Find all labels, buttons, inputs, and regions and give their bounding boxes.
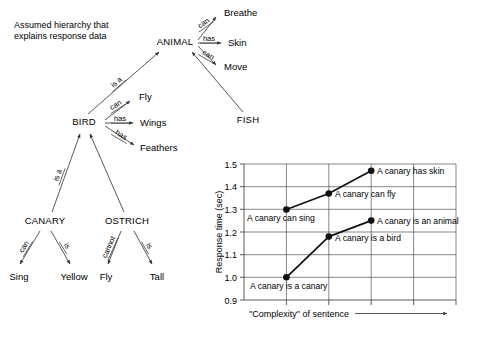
rel-ostrich-tall-group: is	[142, 237, 157, 254]
relation-animal-skin: has	[203, 34, 215, 43]
rel-canary-sing-group: can	[15, 237, 32, 257]
node-ostrich: OSTRICH	[105, 215, 149, 226]
node-canary: CANARY	[25, 215, 66, 226]
ytick-label-1.0: 1.0	[224, 273, 237, 283]
isa-edge-ostrich-bird	[90, 134, 124, 212]
ytick-label-1.5: 1.5	[224, 160, 237, 170]
rel-ostrich-fly-group: cannot	[100, 234, 118, 260]
leaf-breathe: Breathe	[224, 7, 257, 18]
leaf-move: Move	[224, 61, 247, 72]
isa-edge-bird-animal	[88, 52, 159, 114]
leaf-sing: Sing	[9, 271, 28, 282]
leaf-wings: Wings	[140, 117, 167, 128]
point-label-canary-is-a-bird: A canary is a bird	[335, 233, 401, 243]
rel-canary-yellow-group: is	[60, 237, 75, 254]
node-fish: FISH	[237, 114, 259, 125]
caption-line-2: explains response data	[14, 31, 107, 41]
relation-bird-fly: can	[108, 98, 123, 112]
leaf-yellow: Yellow	[60, 271, 87, 282]
relation-canary-sing: can	[17, 239, 31, 254]
rel-bird-fly-group: can	[106, 96, 126, 114]
leaf-skin: Skin	[228, 37, 246, 48]
ytick-label-0.9: 0.9	[224, 296, 237, 306]
data-point-canary-is-a-bird[interactable]	[326, 233, 333, 240]
y-axis-title: Response time (sec)	[214, 191, 224, 274]
leaf-feathers: Feathers	[140, 142, 178, 153]
point-label-canary-has-skin: A canary has skin	[377, 166, 445, 176]
data-point-canary-can-fly[interactable]	[326, 190, 333, 197]
ytick-label-1.4: 1.4	[224, 182, 237, 192]
node-animal: ANIMAL	[157, 36, 194, 47]
response-time-chart: 1.5 1.4 1.3 1.2 1.1 1.0 0.9 Response tim…	[214, 160, 459, 320]
point-label-canary-is-an-animal: A canary is an animal	[377, 216, 459, 226]
figure-canvas: Assumed hierarchy that explains response…	[0, 0, 479, 342]
x-axis-title: "Complexity" of sentence	[249, 309, 349, 319]
figure-root: Assumed hierarchy that explains response…	[0, 0, 479, 342]
leaf-tall: Tall	[150, 271, 164, 282]
rel-animal-breathe-group: can	[194, 14, 214, 32]
isa-label-bird-animal: is a	[109, 74, 124, 89]
point-label-canary-is-a-canary: A canary is a canary	[250, 281, 328, 291]
point-label-canary-can-fly: A canary can fly	[335, 189, 396, 199]
ytick-label-1.2: 1.2	[224, 228, 237, 238]
data-point-canary-has-skin[interactable]	[368, 168, 375, 175]
relation-bird-wings: has	[114, 114, 126, 123]
leaf-fly-ostrich: Fly	[100, 271, 113, 282]
ytick-label-1.1: 1.1	[224, 250, 237, 260]
ytick-label-1.3: 1.3	[224, 205, 237, 215]
relation-animal-breathe: can	[196, 16, 211, 30]
relation-animal-move: can	[201, 48, 216, 62]
node-bird: BIRD	[72, 116, 96, 127]
data-point-canary-is-an-animal[interactable]	[368, 217, 375, 224]
caption-line-1: Assumed hierarchy that	[14, 20, 109, 30]
point-label-canary-can-sing: A canary can sing	[247, 213, 315, 223]
isa-label-canary-bird: is a	[51, 167, 64, 182]
leaf-fly-bird: Fly	[139, 91, 152, 102]
rel-animal-skin-group: has	[200, 34, 218, 43]
rel-bird-wings-group: has	[111, 114, 129, 123]
